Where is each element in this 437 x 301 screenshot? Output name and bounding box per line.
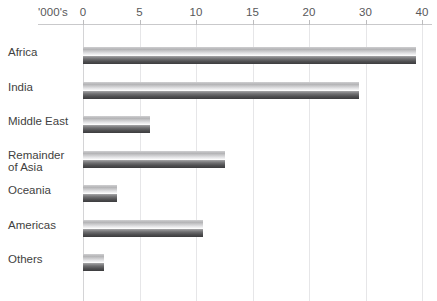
- bar-row[interactable]: Middle East: [0, 112, 437, 146]
- x-axis-tick-label: 10: [190, 6, 203, 18]
- tick-mark: [422, 20, 423, 25]
- x-axis-tick-label: 15: [246, 6, 259, 18]
- tick-mark: [366, 20, 367, 25]
- tick-mark: [309, 20, 310, 25]
- bar[interactable]: [83, 151, 225, 168]
- bar-row[interactable]: Americas: [0, 216, 437, 250]
- tick-mark: [83, 20, 84, 25]
- horizontal-bar-chart: '000's 051015203040 AfricaIndiaMiddle Ea…: [0, 0, 437, 301]
- bar[interactable]: [83, 116, 150, 133]
- bar[interactable]: [83, 254, 104, 271]
- bar[interactable]: [83, 47, 416, 64]
- bar[interactable]: [83, 82, 359, 99]
- x-axis-tick-label: 0: [80, 6, 86, 18]
- x-axis-tick-label: 20: [303, 6, 316, 18]
- tick-mark: [253, 20, 254, 25]
- bar[interactable]: [83, 220, 203, 237]
- x-axis-tick-label: 40: [416, 6, 429, 18]
- bar-row[interactable]: Others: [0, 250, 437, 284]
- bar-row[interactable]: Oceania: [0, 181, 437, 215]
- axis-units-label: '000's: [38, 6, 68, 18]
- chart-x-axis: '000's 051015203040: [0, 0, 437, 26]
- bar-row[interactable]: India: [0, 78, 437, 112]
- tick-mark: [140, 20, 141, 25]
- tick-mark: [196, 20, 197, 25]
- x-axis-tick-label: 30: [359, 6, 372, 18]
- bar-row[interactable]: Africa: [0, 43, 437, 77]
- x-axis-tick-label: 5: [136, 6, 142, 18]
- bar-row[interactable]: Remainder of Asia: [0, 147, 437, 181]
- plot-area: AfricaIndiaMiddle EastRemainder of AsiaO…: [0, 25, 437, 301]
- bar[interactable]: [83, 185, 117, 202]
